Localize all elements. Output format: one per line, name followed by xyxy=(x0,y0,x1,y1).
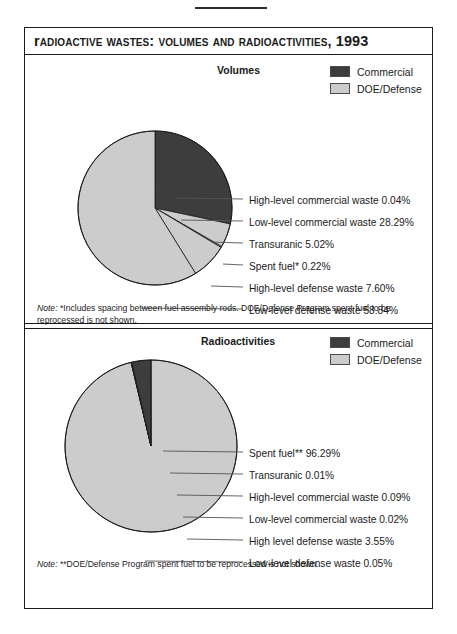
note-label-radioactivities: Note: xyxy=(37,559,58,569)
panel-radioactivities: Radioactivities Commercial DOE/Defense S… xyxy=(25,328,432,583)
figure-title-band: Radioactive Wastes: Volumes and Radioact… xyxy=(25,28,432,55)
pie-slice-label: Spent fuel** 96.29% xyxy=(249,448,340,459)
note-label-volumes: Note: xyxy=(37,303,58,313)
slice-label-layer-volumes: High-level commercial waste 0.04%Low-lev… xyxy=(25,55,432,328)
slice-label-layer-radioactivities: Spent fuel** 96.29%Transuranic 0.01%High… xyxy=(25,328,432,583)
note-volumes: Note: *Includes spacing between fuel ass… xyxy=(37,302,409,326)
note-text-radioactivities: **DOE/Defense Program spent fuel to be r… xyxy=(58,559,319,569)
pie-slice-label: High-level commercial waste 0.09% xyxy=(249,492,410,503)
panel-volumes: Volumes Commercial DOE/Defense High-leve… xyxy=(25,55,432,328)
top-divider-rule xyxy=(195,7,267,9)
pie-slice-label: Transuranic 0.01% xyxy=(249,470,334,481)
pie-slice-label: Transuranic 5.02% xyxy=(249,239,334,250)
page-title: Radioactive Wastes: Volumes and Radioact… xyxy=(34,33,368,49)
pie-slice-label: Low-level commercial waste 0.02% xyxy=(249,514,408,525)
pie-slice-label: High-level defense waste 7.60% xyxy=(249,283,395,294)
pie-slice-label: High level defense waste 3.55% xyxy=(249,536,394,547)
note-radioactivities: Note: **DOE/Defense Program spent fuel t… xyxy=(37,558,409,570)
pie-slice-label: Low-level commercial waste 28.29% xyxy=(249,217,414,228)
figure-frame: Radioactive Wastes: Volumes and Radioact… xyxy=(24,27,433,609)
pie-slice-label: High-level commercial waste 0.04% xyxy=(249,195,410,206)
pie-slice-label: Spent fuel* 0.22% xyxy=(249,261,331,272)
note-text-volumes: *Includes spacing between fuel assembly … xyxy=(37,303,391,325)
